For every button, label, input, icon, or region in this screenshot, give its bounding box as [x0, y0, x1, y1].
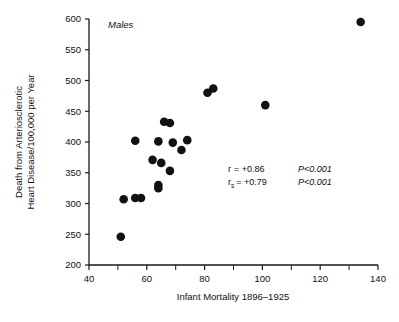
x-tick-label: 80 — [199, 273, 210, 284]
data-point — [209, 84, 218, 93]
y-tick-label: 250 — [65, 229, 81, 240]
spearman-p-value: P<0.001 — [298, 177, 332, 187]
plot-canvas: 200250300350400450500550600 406080100120… — [0, 0, 399, 322]
data-point — [131, 136, 140, 145]
data-point — [157, 159, 166, 168]
y-tick-label: 300 — [65, 198, 81, 209]
y-tick-label: 200 — [65, 259, 81, 270]
y-axis-tick-labels: 200250300350400450500550600 — [65, 13, 81, 270]
data-point — [148, 156, 157, 165]
pearson-r-value: = +0.86 — [234, 164, 265, 174]
group-label: Males — [108, 19, 134, 30]
data-point — [261, 101, 270, 110]
data-point — [169, 138, 178, 147]
data-point — [183, 136, 192, 145]
y-axis-title: Death from Arteriosclerotic Heart Diseas… — [13, 74, 36, 209]
data-point — [177, 146, 186, 155]
pearson-p-value: P<0.001 — [298, 164, 332, 174]
data-point — [166, 119, 175, 128]
x-tick-label: 140 — [370, 273, 386, 284]
x-axis-title: Infant Mortality 1896–1925 — [177, 291, 290, 302]
y-tick-label: 350 — [65, 167, 81, 178]
y-tick-label: 400 — [65, 136, 81, 147]
y-tick-label: 500 — [65, 75, 81, 86]
scatter-plot-figure: 200250300350400450500550600 406080100120… — [0, 0, 399, 322]
data-point — [356, 18, 365, 27]
y-tick-label: 600 — [65, 13, 81, 24]
x-tick-label: 40 — [84, 273, 95, 284]
data-point — [119, 195, 128, 204]
y-axis-title-line1: Death from Arteriosclerotic — [13, 86, 24, 198]
spearman-r-value: = +0.79 — [236, 177, 267, 187]
y-tick-label: 550 — [65, 44, 81, 55]
y-axis-title-line2: Heart Disease/100,000 per Year — [25, 74, 36, 209]
x-tick-label: 100 — [254, 273, 270, 284]
pearson-r-line: r= +0.86 — [228, 164, 265, 174]
pearson-r-symbol: r — [228, 164, 231, 174]
data-point — [116, 232, 125, 241]
data-point — [154, 137, 163, 146]
data-point — [137, 194, 146, 203]
x-tick-label: 120 — [312, 273, 328, 284]
x-tick-label: 60 — [142, 273, 153, 284]
y-tick-label: 450 — [65, 106, 81, 117]
data-point — [154, 181, 163, 190]
data-point — [166, 167, 175, 176]
